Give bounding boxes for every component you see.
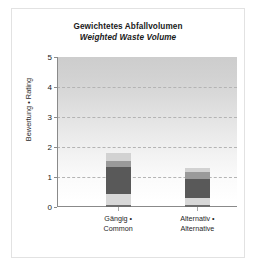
bar-alternative[interactable] (185, 168, 210, 207)
plot-area: 5 4 3 2 1 0 Gängig • Common Alternativ •… (57, 57, 237, 207)
bar-segment (106, 153, 131, 161)
bar-segment (185, 198, 210, 206)
x-axis-label-common: Gängig • Common (104, 214, 133, 233)
y-tick-mark-2 (54, 147, 57, 148)
y-tick-mark-5 (54, 57, 57, 58)
x-axis-label-alternative-line2: Alternative (180, 224, 214, 234)
y-tick-mark-3 (54, 117, 57, 118)
x-tick-mark-common (118, 207, 119, 211)
chart-title-block: Gewichtetes Abfallvolumen Weighted Waste… (12, 21, 244, 43)
y-axis-line (57, 57, 58, 207)
y-tick-mark-4 (54, 87, 57, 88)
y-axis-label: Bewertung • Rating (24, 60, 33, 160)
x-axis-label-alternative-line1: Alternativ • (180, 214, 214, 224)
bar-segment (106, 194, 131, 205)
page-title: Gewichtetes Abfallvolumen (12, 21, 244, 32)
y-tick-label-4: 4 (48, 83, 52, 92)
bar-common[interactable] (106, 153, 131, 207)
y-tick-mark-1 (54, 177, 57, 178)
x-axis-line (57, 206, 237, 207)
chart-figure: Gewichtetes Abfallvolumen Weighted Waste… (11, 8, 245, 258)
y-tick-label-2: 2 (48, 143, 52, 152)
gridline-4 (57, 87, 237, 88)
bar-segment (106, 161, 131, 168)
y-tick-mark-0 (54, 207, 57, 208)
y-tick-label-0: 0 (48, 203, 52, 212)
gridline-1 (57, 177, 237, 178)
x-axis-label-alternative: Alternativ • Alternative (180, 214, 214, 233)
plot-background (57, 57, 237, 207)
bar-segment (106, 167, 131, 193)
chart-subtitle: Weighted Waste Volume (12, 32, 244, 43)
x-axis-label-common-line1: Gängig • (104, 214, 133, 224)
bar-segment (185, 179, 210, 198)
y-tick-label-3: 3 (48, 113, 52, 122)
y-tick-label-1: 1 (48, 173, 52, 182)
x-tick-mark-alternative (197, 207, 198, 211)
gridline-3 (57, 117, 237, 118)
gridline-2 (57, 147, 237, 148)
x-axis-label-common-line2: Common (104, 224, 133, 234)
y-tick-label-5: 5 (48, 53, 52, 62)
